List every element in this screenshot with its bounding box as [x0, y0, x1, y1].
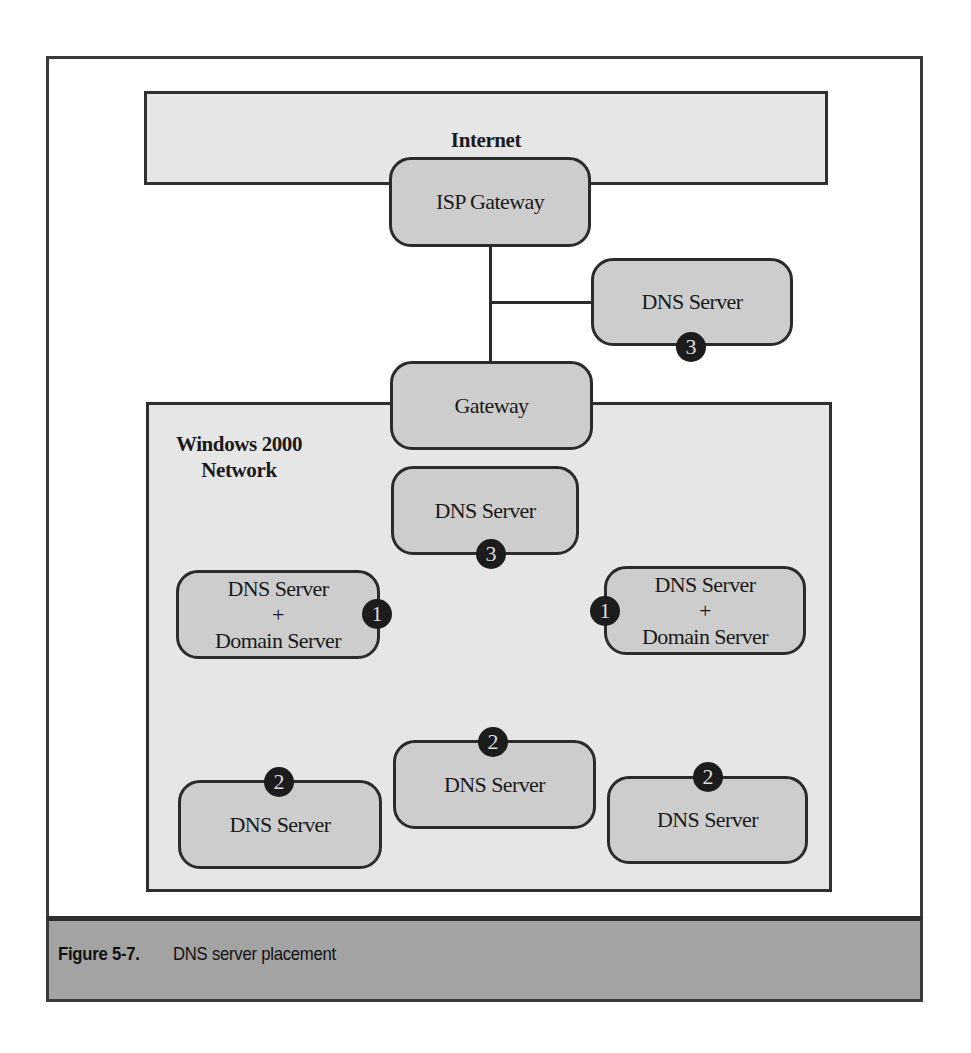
- node-label-line3: Domain Server: [215, 628, 341, 654]
- figure-caption-band: Figure 5-7. DNS server placement: [46, 916, 923, 1002]
- node-label-line1: DNS Server: [655, 572, 756, 598]
- gateway-node: Gateway: [390, 361, 593, 450]
- internet-label: Internet: [147, 128, 825, 153]
- figure-number: Figure 5-7.: [58, 943, 140, 965]
- node-label-line3: Domain Server: [642, 624, 768, 650]
- node-label-line1: DNS Server: [228, 576, 329, 602]
- dns-domain-server-node-left: DNS Server + Domain Server: [176, 570, 380, 659]
- isp-gateway-label: ISP Gateway: [436, 189, 544, 215]
- node-label-line2: +: [272, 602, 284, 628]
- badge-2-icon: 2: [478, 727, 508, 757]
- figure-title: DNS server placement: [173, 943, 336, 965]
- node-label: DNS Server: [444, 772, 545, 798]
- badge-3-icon: 3: [476, 539, 506, 569]
- isp-gateway-node: ISP Gateway: [389, 157, 591, 247]
- badge-1-icon: 1: [590, 596, 620, 626]
- figure-caption: Figure 5-7. DNS server placement: [58, 943, 358, 965]
- node-label: DNS Server: [435, 498, 536, 524]
- windows-network-label-line1: Windows 2000: [169, 431, 309, 457]
- dns-domain-server-node-right: DNS Server + Domain Server: [604, 566, 806, 655]
- badge-2-icon: 2: [264, 767, 294, 797]
- connector-to-external-dns: [489, 301, 593, 304]
- badge-3-icon: 3: [676, 332, 706, 362]
- badge-1-icon: 1: [362, 599, 392, 629]
- windows-network-label-line2: Network: [169, 457, 309, 483]
- node-label-line2: +: [699, 598, 711, 624]
- external-dns-server-label: DNS Server: [642, 289, 743, 315]
- node-label: DNS Server: [657, 807, 758, 833]
- badge-2-icon: 2: [693, 762, 723, 792]
- windows-network-label: Windows 2000 Network: [169, 431, 309, 483]
- gateway-label: Gateway: [455, 393, 529, 419]
- node-label: DNS Server: [230, 812, 331, 838]
- connector-isp-to-gateway: [489, 245, 492, 363]
